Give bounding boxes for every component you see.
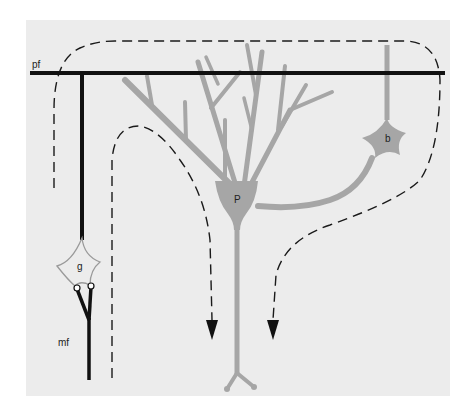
axon-terminal: [224, 386, 230, 392]
label-parallel-fiber: pf: [32, 59, 41, 70]
label-granule-cell: g: [77, 261, 83, 272]
cerebellar-circuit-diagram: pf g P b mf: [0, 0, 469, 409]
mossy-terminal: [74, 285, 80, 291]
mossy-terminal: [88, 283, 94, 289]
label-mossy-fiber: mf: [58, 337, 69, 348]
label-purkinje-cell: P: [234, 194, 241, 205]
label-basket-cell: b: [385, 133, 391, 144]
axon-terminal: [251, 384, 257, 390]
